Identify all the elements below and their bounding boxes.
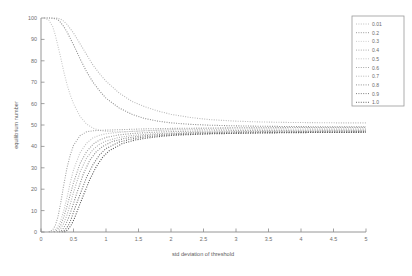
legend-label: 0.6 bbox=[372, 65, 379, 71]
series-line-0-3 bbox=[44, 18, 366, 132]
plot-frame bbox=[41, 18, 366, 232]
legend[interactable]: 0.010.20.30.40.50.60.70.80.91.0 bbox=[352, 16, 404, 106]
legend-label: 0.3 bbox=[372, 38, 379, 44]
series-line-1-0 bbox=[64, 132, 366, 232]
curves-group bbox=[44, 18, 366, 232]
series-line-0-01 bbox=[44, 18, 366, 123]
y-tick-label: 20 bbox=[31, 186, 37, 192]
x-tick-label: 0.5 bbox=[70, 236, 78, 242]
chart-figure: 00.511.522.533.544.55 010203040506070809… bbox=[0, 0, 412, 276]
x-tick-label: 0 bbox=[40, 236, 43, 242]
x-tick-label: 4.5 bbox=[330, 236, 338, 242]
x-tick-label: 1.5 bbox=[135, 236, 143, 242]
x-tick-label: 3.5 bbox=[265, 236, 273, 242]
legend-label: 0.2 bbox=[372, 30, 379, 36]
legend-label: 0.4 bbox=[372, 47, 379, 53]
legend-label: 0.8 bbox=[372, 82, 379, 88]
series-line-0-6 bbox=[54, 130, 366, 232]
y-tick-group: 0102030405060708090100 bbox=[28, 15, 45, 235]
series-line-0-2 bbox=[44, 18, 366, 127]
series-line-0-5 bbox=[51, 129, 366, 232]
legend-label: 1.0 bbox=[372, 99, 379, 105]
legend-label: 0.9 bbox=[372, 91, 379, 97]
y-tick-label: 0 bbox=[34, 229, 37, 235]
series-line-0-9 bbox=[62, 132, 366, 232]
legend-label: 0.5 bbox=[372, 56, 379, 62]
axes-group bbox=[41, 18, 366, 232]
y-tick-label: 100 bbox=[28, 15, 37, 21]
x-tick-label: 1 bbox=[105, 236, 108, 242]
y-tick-label: 50 bbox=[31, 122, 37, 128]
series-line-0-8 bbox=[59, 131, 366, 232]
x-tick-label: 5 bbox=[365, 236, 368, 242]
x-tick-group: 00.511.522.533.544.55 bbox=[40, 229, 368, 243]
legend-label: 0.7 bbox=[372, 73, 379, 79]
x-tick-label: 3 bbox=[235, 236, 238, 242]
x-tick-label: 2 bbox=[170, 236, 173, 242]
equilibrium-number-line-chart: 00.511.522.533.544.55 010203040506070809… bbox=[0, 0, 412, 276]
series-line-0-4 bbox=[49, 128, 366, 232]
y-tick-label: 40 bbox=[31, 143, 37, 149]
y-tick-label: 60 bbox=[31, 101, 37, 107]
y-axis-title: equilibrium number bbox=[13, 101, 19, 149]
y-tick-label: 70 bbox=[31, 79, 37, 85]
y-tick-label: 10 bbox=[31, 208, 37, 214]
y-tick-label: 90 bbox=[31, 36, 37, 42]
y-tick-label: 80 bbox=[31, 58, 37, 64]
x-tick-label: 2.5 bbox=[200, 236, 208, 242]
legend-label: 0.01 bbox=[372, 21, 382, 27]
x-tick-label: 4 bbox=[300, 236, 303, 242]
x-axis-title: std deviation of threshold bbox=[172, 251, 234, 257]
y-tick-label: 30 bbox=[31, 165, 37, 171]
